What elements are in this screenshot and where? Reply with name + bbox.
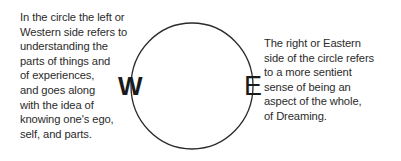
right-text-line: aspect of the whole,	[264, 94, 399, 109]
right-text-line: to a more sentient	[264, 65, 399, 80]
right-text-line: side of the circle refers	[264, 51, 399, 66]
east-label: E	[244, 73, 262, 100]
right-text-line: of Dreaming.	[264, 109, 399, 124]
west-label: W	[118, 73, 141, 99]
right-text-line: The right or Eastern	[264, 36, 399, 51]
right-description: The right or Eastern side of the circle …	[264, 36, 399, 124]
right-text-line: sense of being an	[264, 80, 399, 95]
